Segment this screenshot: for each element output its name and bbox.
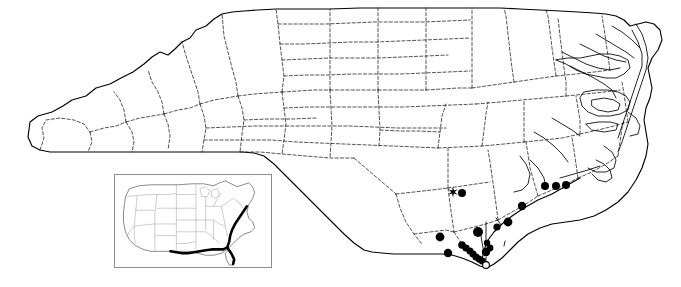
state-line — [221, 198, 233, 206]
occurrence-dot-filled — [541, 182, 549, 190]
occurrence-dot-open — [483, 262, 490, 269]
state-line — [176, 242, 196, 244]
state-line — [134, 224, 155, 226]
us-national-outline — [124, 181, 255, 255]
state-line — [206, 232, 220, 244]
occurrence-dot-filled — [458, 189, 466, 197]
us-inset-map — [115, 175, 271, 267]
occurrence-dot-filled — [444, 249, 452, 257]
state-line — [134, 196, 137, 226]
state-line — [221, 206, 227, 235]
great-lakes — [200, 187, 210, 197]
occurrence-dot-filled — [436, 233, 445, 242]
us-inset-map-box — [114, 174, 272, 268]
occurrence-dot-filled — [518, 202, 526, 210]
state-line — [214, 220, 226, 226]
occurrence-dot-filled — [562, 181, 570, 189]
state-line — [233, 198, 243, 208]
highlighted-range-band-florida — [227, 247, 234, 264]
state-line — [134, 226, 135, 244]
distribution-map-figure — [0, 0, 681, 287]
occurrence-dot-filled — [484, 240, 490, 246]
occurrence-dot-filled — [473, 227, 483, 237]
state-line — [157, 194, 177, 195]
us-state-lines-group — [125, 185, 242, 252]
occurrence-dot-filled — [552, 182, 560, 190]
state-line — [155, 195, 157, 224]
state-line — [125, 195, 158, 197]
occurrence-dot-filled — [504, 218, 513, 227]
north-carolina-map — [0, 0, 681, 287]
occurrence-dot-filled — [493, 223, 500, 230]
highlighted-range-band — [170, 206, 246, 253]
state-line — [214, 193, 222, 207]
